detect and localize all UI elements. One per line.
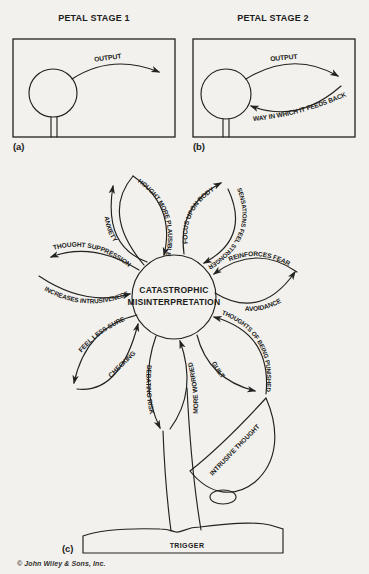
focus-upon-body-label: FOCUS UPON BODY — [181, 185, 215, 244]
avoidance-arrow — [215, 272, 295, 303]
center-label-line2: MISINTERPRETATION — [128, 297, 221, 307]
sensations-feel-stronger-label: SENSATIONS FEEL STRONGER — [207, 187, 249, 272]
more-worried-return-arrow — [170, 341, 187, 429]
panel-b-caption: (b) — [193, 141, 205, 152]
output-arrow-b — [246, 64, 338, 79]
output-arrow-a — [72, 64, 159, 79]
panel-b: PETAL STAGE 2 OUTPUT WAY IN WHICH IT FEE… — [193, 13, 355, 152]
punished-return-arrow — [214, 317, 267, 394]
flower-diagram: CATASTROPHIC MISINTERPRETATION — [0, 0, 297, 554]
increases-intrusiveness-label: INCREASES INTRUSIVENESS — [44, 285, 130, 305]
panel-b-title: PETAL STAGE 2 — [237, 13, 309, 23]
feedback-label: WAY IN WHICH IT FEEDS BACK — [253, 91, 348, 122]
leaf-outline — [190, 398, 275, 492]
petal-plausible-outer-edge — [119, 176, 144, 265]
output-label-a: OUTPUT — [94, 52, 123, 62]
copyright-line: © John Wiley & Sons, Inc. — [17, 560, 106, 568]
center-label-line1: CATASTROPHIC — [139, 285, 208, 295]
avoidance-label: AVOIDANCE — [245, 297, 283, 312]
guilt-label: GUILT — [210, 360, 226, 379]
stem-left-line — [163, 431, 171, 531]
thought-suppression-label: THOUGHT SUPPRESSION — [52, 241, 133, 268]
anxiety-label: ANXIETY — [104, 216, 120, 244]
flower-caption: (c) — [62, 543, 73, 554]
checking-label: CHECKING — [107, 350, 137, 379]
panel-a-title: PETAL STAGE 1 — [58, 13, 130, 23]
panel-a-caption: (a) — [13, 141, 24, 152]
panel-b-box — [193, 39, 355, 137]
panel-a-box — [13, 39, 175, 137]
trigger-label: TRIGGER — [170, 542, 205, 549]
output-label-b: OUTPUT — [270, 53, 299, 62]
feel-less-sure-label: FEEL LESS SURE — [77, 315, 126, 353]
debating-risk-label: DEBATING RISK — [145, 365, 156, 416]
flower-head-b — [201, 69, 251, 119]
petal-diagram: PETAL STAGE 1 OUTPUT (a) PETAL STAGE 2 O… — [0, 0, 369, 574]
anxiety-arrow — [111, 186, 147, 262]
panel-a: PETAL STAGE 1 OUTPUT (a) — [13, 13, 175, 152]
flower-head-a — [29, 69, 77, 117]
guilt-out-arrow — [197, 335, 255, 391]
